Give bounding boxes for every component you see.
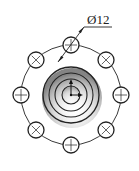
technical-drawing: Ø12 — [0, 0, 139, 171]
bolt-hole — [28, 52, 44, 68]
bolt-hole — [28, 122, 44, 138]
arrowhead-icon — [79, 27, 85, 33]
bolt-hole — [98, 122, 114, 138]
bolt-hole — [13, 87, 29, 103]
bolt-hole — [98, 52, 114, 68]
bolt-hole — [113, 87, 129, 103]
arrowhead-icon — [58, 56, 64, 62]
central-boss — [42, 67, 102, 128]
diameter-label: Ø12 — [87, 12, 109, 27]
bolt-hole — [63, 137, 79, 153]
